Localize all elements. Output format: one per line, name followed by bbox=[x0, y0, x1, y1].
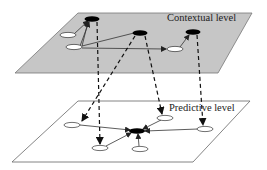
node-hub bbox=[129, 128, 145, 134]
predictive-level-label: Predictive level bbox=[169, 103, 235, 114]
network-diagram bbox=[0, 0, 267, 170]
node-c bbox=[66, 44, 82, 49]
node-p1 bbox=[64, 122, 80, 127]
node-f bbox=[167, 46, 183, 51]
diagram-canvas: Contextual level Predictive level bbox=[0, 0, 267, 170]
node-p2 bbox=[92, 145, 108, 150]
node-p5 bbox=[132, 146, 148, 151]
node-e bbox=[186, 29, 201, 35]
contextual-level-label: Contextual level bbox=[167, 13, 236, 24]
node-p3 bbox=[157, 115, 173, 120]
node-d bbox=[133, 30, 148, 36]
node-a bbox=[85, 16, 100, 22]
node-p4 bbox=[197, 126, 213, 131]
node-b bbox=[60, 32, 76, 37]
